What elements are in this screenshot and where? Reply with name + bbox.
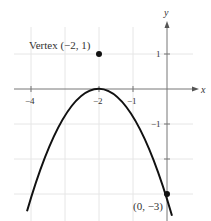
x-tick-label-m2: −2 — [93, 96, 103, 106]
y-intercept-label: (0, −3) — [133, 200, 163, 213]
vertex-label: Vertex (−2, 1) — [29, 39, 91, 52]
y-intercept-point — [164, 191, 170, 197]
y-axis-arrow-icon — [165, 21, 170, 28]
x-tick-label-m4: −4 — [25, 96, 35, 106]
y-axis-label: y — [163, 7, 169, 18]
vertex-point — [96, 51, 102, 57]
x-axis-label: x — [200, 84, 206, 95]
parabola-chart: x y −4 −2 −1 1 −1 Vertex (−2, 1) (0, −3) — [0, 0, 211, 221]
y-tick-label-1: 1 — [156, 49, 161, 59]
x-tick-label-m1: −1 — [127, 96, 137, 106]
y-tick-label-m1: −1 — [151, 119, 161, 129]
x-axis-arrow-icon — [192, 87, 199, 92]
